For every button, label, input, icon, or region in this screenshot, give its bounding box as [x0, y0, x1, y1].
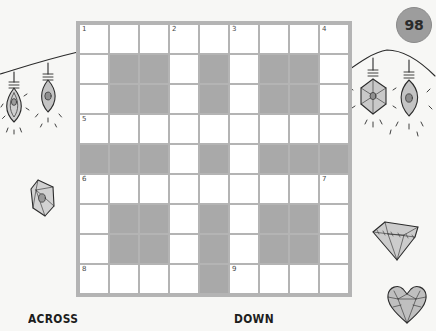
- grid-cell-block: [200, 85, 228, 113]
- grid-cell[interactable]: [230, 235, 258, 263]
- grid-cell[interactable]: [80, 235, 108, 263]
- grid-cell[interactable]: [290, 25, 318, 53]
- grid-cell-number: 3: [232, 25, 236, 34]
- grid-cell-block: [320, 145, 348, 173]
- grid-cell-block: [260, 235, 288, 263]
- grid-cell[interactable]: [230, 55, 258, 83]
- grid-cell-block: [200, 265, 228, 293]
- grid-cell-number: 2: [172, 25, 176, 34]
- grid-cell-block: [290, 145, 318, 173]
- grid-cell-block: [140, 235, 168, 263]
- grid-cell[interactable]: [110, 265, 138, 293]
- grid-cell[interactable]: [320, 85, 348, 113]
- crossword-grid[interactable]: 123456789: [76, 21, 352, 297]
- grid-cell-number: 1: [82, 25, 86, 34]
- grid-cell[interactable]: [110, 115, 138, 143]
- grid-cell-block: [200, 205, 228, 233]
- grid-cell-block: [260, 145, 288, 173]
- grid-cell-block: [110, 85, 138, 113]
- grid-cell-block: [290, 205, 318, 233]
- grid-cell-number: 5: [82, 115, 86, 124]
- grid-cell-block: [200, 145, 228, 173]
- grid-cell-block: [200, 55, 228, 83]
- grid-cell[interactable]: [80, 205, 108, 233]
- heart-gem-doodle-right: [385, 283, 429, 327]
- grid-cell-block: [140, 205, 168, 233]
- grid-cell[interactable]: [320, 115, 348, 143]
- grid-cell[interactable]: [230, 205, 258, 233]
- grid-cell[interactable]: [110, 175, 138, 203]
- grid-cell[interactable]: [140, 175, 168, 203]
- grid-cell[interactable]: [320, 205, 348, 233]
- grid-cell[interactable]: [170, 265, 198, 293]
- across-heading: ACROSS: [28, 311, 78, 326]
- grid-cell[interactable]: [170, 235, 198, 263]
- grid-cell[interactable]: [230, 145, 258, 173]
- grid-cell[interactable]: [170, 115, 198, 143]
- grid-cell[interactable]: [260, 175, 288, 203]
- grid-cell-block: [200, 235, 228, 263]
- grid-cell[interactable]: [260, 115, 288, 143]
- grid-cell-block: [260, 55, 288, 83]
- grid-cell-block: [110, 235, 138, 263]
- grid-cell[interactable]: [260, 265, 288, 293]
- down-heading: DOWN: [234, 311, 274, 326]
- grid-cell[interactable]: 2: [170, 25, 198, 53]
- grid-cell-block: [110, 55, 138, 83]
- grid-cell[interactable]: [290, 265, 318, 293]
- grid-cell[interactable]: [320, 265, 348, 293]
- grid-cell[interactable]: [200, 25, 228, 53]
- grid-cell[interactable]: [170, 85, 198, 113]
- grid-cell[interactable]: [170, 205, 198, 233]
- grid-cell[interactable]: [260, 25, 288, 53]
- grid-cell[interactable]: 4: [320, 25, 348, 53]
- grid-cell-block: [140, 85, 168, 113]
- gem-doodle-left: [28, 178, 58, 218]
- grid-cell[interactable]: 1: [80, 25, 108, 53]
- grid-cell[interactable]: [320, 235, 348, 263]
- grid-cell[interactable]: [140, 115, 168, 143]
- page-number-badge: 98: [396, 7, 432, 43]
- grid-cell-block: [110, 205, 138, 233]
- grid-cell[interactable]: 3: [230, 25, 258, 53]
- grid-cell-block: [140, 145, 168, 173]
- grid-cell-block: [290, 85, 318, 113]
- grid-cell[interactable]: [200, 115, 228, 143]
- grid-cell[interactable]: 8: [80, 265, 108, 293]
- grid-cell-block: [260, 85, 288, 113]
- grid-cell[interactable]: [170, 175, 198, 203]
- grid-cell[interactable]: [200, 175, 228, 203]
- grid-cell[interactable]: 7: [320, 175, 348, 203]
- grid-cell[interactable]: 9: [230, 265, 258, 293]
- grid-cell[interactable]: [320, 55, 348, 83]
- grid-cell-block: [290, 235, 318, 263]
- string-lights-left: [0, 52, 82, 136]
- grid-cell-number: 6: [82, 175, 86, 184]
- grid-cell-block: [260, 205, 288, 233]
- grid-cell-number: 7: [322, 175, 326, 184]
- grid-cell[interactable]: [140, 25, 168, 53]
- grid-cell-block: [110, 145, 138, 173]
- grid-cell[interactable]: [140, 265, 168, 293]
- grid-cell-number: 4: [322, 25, 326, 34]
- crossword-page: 98: [0, 0, 436, 331]
- grid-cell[interactable]: [230, 85, 258, 113]
- grid-cell[interactable]: [110, 25, 138, 53]
- grid-cell[interactable]: 5: [80, 115, 108, 143]
- grid-cell[interactable]: [290, 115, 318, 143]
- grid-cell-block: [290, 55, 318, 83]
- grid-cell[interactable]: [290, 175, 318, 203]
- grid-cell[interactable]: [80, 85, 108, 113]
- grid-cell[interactable]: [230, 175, 258, 203]
- grid-cell[interactable]: [170, 145, 198, 173]
- grid-cell[interactable]: [170, 55, 198, 83]
- grid-cell-number: 9: [232, 265, 236, 274]
- crossword-grid-body: 123456789: [80, 25, 348, 293]
- diamond-doodle-right: [371, 219, 424, 263]
- string-lights-right: [343, 46, 436, 141]
- grid-cell-block: [140, 55, 168, 83]
- grid-cell[interactable]: [80, 55, 108, 83]
- grid-cell[interactable]: [230, 115, 258, 143]
- grid-cell-block: [80, 145, 108, 173]
- grid-cell[interactable]: 6: [80, 175, 108, 203]
